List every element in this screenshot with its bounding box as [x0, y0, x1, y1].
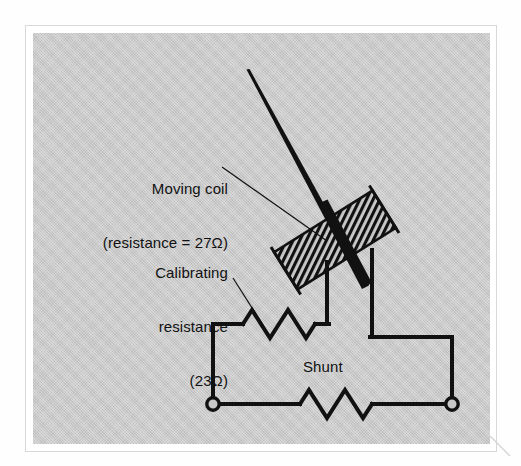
figure-root: Moving coil (resistance = 27Ω) Calibrati…: [0, 0, 521, 466]
label-shunt: Shunt: [303, 358, 343, 376]
leader-line-moving-coil: [222, 167, 327, 241]
label-calibrating-line3: (23Ω): [88, 372, 228, 390]
label-calibrating-resistance: Calibrating resistance (23Ω): [88, 228, 228, 426]
label-moving-coil-line1: Moving coil: [98, 180, 228, 198]
label-calibrating-line2: resistance: [88, 318, 228, 336]
page-corner-mark: [488, 434, 514, 460]
label-calibrating-line1: Calibrating: [88, 264, 228, 282]
calibrating-resistor-symbol: [243, 310, 315, 338]
moving-coil-symbol: [271, 186, 399, 295]
circuit-artwork: [0, 0, 521, 466]
moving-coil-body: [274, 191, 396, 290]
terminal-right: [446, 398, 458, 410]
shunt-resistor-symbol: [300, 390, 372, 418]
